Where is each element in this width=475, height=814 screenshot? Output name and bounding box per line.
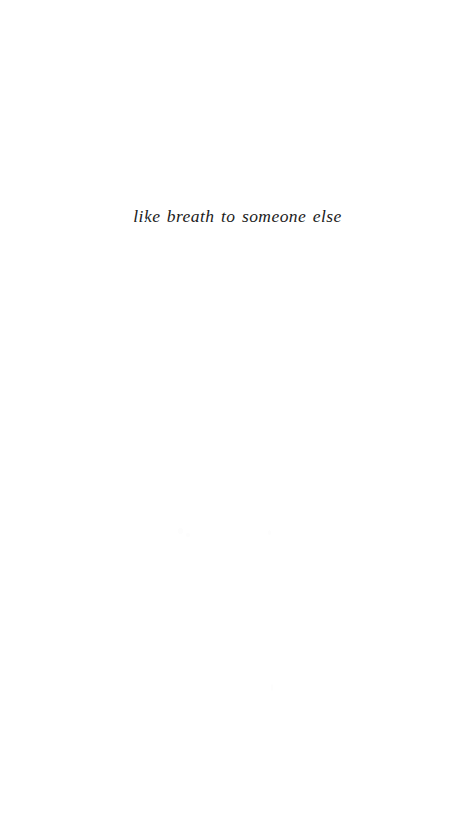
scan-grain-artifact	[186, 533, 190, 537]
scan-grain-artifact	[178, 528, 183, 534]
scan-grain-artifact	[271, 684, 273, 691]
scan-grain-artifact	[268, 530, 271, 535]
verse-block: like breath to someone else	[0, 0, 475, 814]
verse-line: like breath to someone else	[0, 205, 475, 227]
book-page: like breath to someone else	[0, 0, 475, 814]
